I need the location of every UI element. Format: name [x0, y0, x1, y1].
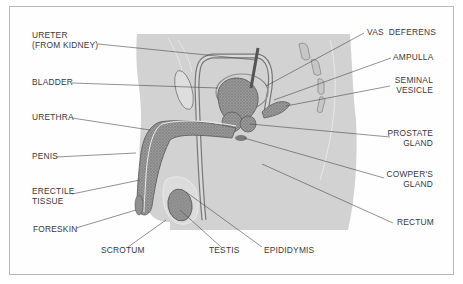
- label-vas-deferens: VAS DEFERENS: [367, 28, 436, 38]
- foreskin: [135, 195, 143, 215]
- label-prostate-line2: GLAND: [403, 138, 433, 148]
- label-seminal-vesicle: SEMINALVESICLE: [386, 76, 433, 95]
- label-seminal-line1: SEMINAL: [395, 75, 433, 85]
- cowpers-gland: [235, 135, 247, 141]
- label-epididymis: EPIDIDYMIS: [264, 246, 314, 256]
- label-prostate-gland: PROSTATEGLAND: [386, 129, 433, 148]
- label-ureter: URETER(FROM KIDNEY): [32, 31, 98, 50]
- label-erectile-line2: TISSUE: [32, 196, 63, 206]
- label-bladder: BLADDER: [32, 78, 73, 88]
- label-ampulla: AMPULLA: [393, 53, 434, 63]
- label-testis: TESTIS: [209, 246, 240, 256]
- label-scrotum: SCROTUM: [101, 246, 145, 256]
- label-ureter-line2: (FROM KIDNEY): [32, 40, 98, 50]
- label-foreskin: FORESKIN: [33, 225, 77, 235]
- label-erectile-line1: ERECTILE: [32, 186, 75, 196]
- label-erectile-tissue: ERECTILETISSUE: [32, 187, 75, 206]
- label-rectum: RECTUM: [397, 218, 434, 228]
- label-prostate-line1: PROSTATE: [388, 128, 434, 138]
- label-cowpers-line2: GLAND: [403, 179, 433, 189]
- label-cowpers-line1: COWPER'S: [387, 169, 433, 179]
- label-urethra: URETHRA: [32, 113, 74, 123]
- label-seminal-line2: VESICLE: [396, 85, 433, 95]
- label-ureter-line1: URETER: [32, 30, 68, 40]
- label-cowpers-gland: COWPER'SGLAND: [386, 170, 433, 189]
- label-penis: PENIS: [32, 152, 58, 162]
